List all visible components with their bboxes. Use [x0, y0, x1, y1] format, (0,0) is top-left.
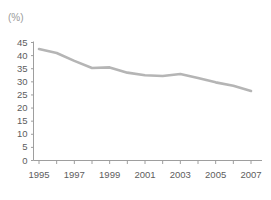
x-tick-label: 2007	[234, 169, 268, 180]
y-tick-label: 20	[6, 103, 28, 113]
x-tick-label: 2005	[199, 169, 233, 180]
y-tick-label: 15	[6, 116, 28, 126]
x-tick-label: 2001	[128, 169, 162, 180]
x-tick-label: 1999	[93, 169, 127, 180]
y-tick-label: 10	[6, 129, 28, 139]
y-tick-label: 40	[6, 51, 28, 61]
y-tick-label: 5	[6, 142, 28, 152]
x-tick-label: 1997	[57, 169, 91, 180]
y-tick-label: 25	[6, 90, 28, 100]
x-tick-label: 1995	[22, 169, 56, 180]
data-series-line	[39, 49, 251, 91]
y-tick-label: 30	[6, 77, 28, 87]
y-tick-label: 0	[6, 156, 28, 166]
chart-container: (%) 454035302520151050 19951997199920012…	[0, 0, 271, 200]
x-tick-label: 2003	[163, 169, 197, 180]
y-tick-label: 35	[6, 64, 28, 74]
y-tick-label: 45	[6, 38, 28, 48]
